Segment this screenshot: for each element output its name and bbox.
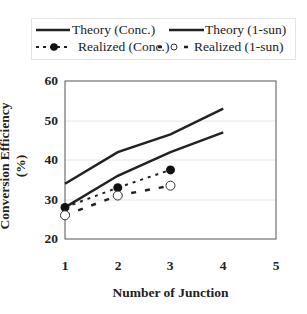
- data-point: [61, 211, 70, 220]
- x-tick: 3: [160, 258, 180, 274]
- data-point: [113, 191, 122, 200]
- x-axis-label: Number of Junction: [65, 285, 276, 301]
- x-tick: 5: [266, 258, 286, 274]
- data-point: [166, 165, 175, 174]
- series-line: [65, 109, 223, 184]
- plot-area: [0, 0, 307, 314]
- x-tick: 2: [108, 258, 128, 274]
- data-point: [166, 181, 175, 190]
- x-tick: 4: [213, 258, 233, 274]
- x-tick: 1: [55, 258, 75, 274]
